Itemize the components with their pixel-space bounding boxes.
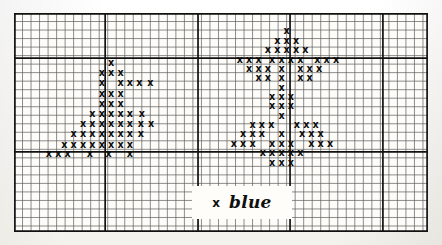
svg-text:x: x (299, 128, 306, 139)
svg-text:x: x (288, 54, 295, 65)
svg-text:x: x (327, 138, 334, 149)
svg-text:x: x (55, 148, 62, 159)
svg-text:x: x (269, 157, 276, 168)
svg-text:x: x (127, 77, 134, 88)
legend-box: x blue (192, 186, 292, 219)
svg-text:x: x (46, 148, 53, 159)
legend-symbol-x-icon: x (212, 197, 220, 209)
svg-text:x: x (71, 139, 78, 150)
svg-text:x: x (249, 138, 256, 149)
svg-text:x: x (65, 148, 72, 159)
svg-text:x: x (231, 138, 238, 149)
svg-text:x: x (127, 148, 134, 159)
svg-text:x: x (333, 54, 340, 65)
star-motif: xxxxxxxxxxxxxxxxxxxxxxxxxxxxxxxxxxxxxxxx… (231, 25, 340, 167)
svg-text:x: x (265, 72, 272, 83)
pattern-sheet: xxxxxxxxxxxxxxxxxxxxxxxxxxxxxxxxxxxxxxxx… (0, 0, 442, 245)
svg-text:x: x (108, 67, 115, 78)
svg-text:x: x (138, 128, 145, 139)
svg-text:x: x (316, 63, 323, 74)
svg-text:x: x (105, 148, 112, 159)
svg-text:x: x (147, 77, 154, 88)
svg-text:x: x (324, 54, 331, 65)
svg-text:x: x (117, 139, 124, 150)
svg-text:x: x (278, 157, 285, 168)
svg-text:x: x (240, 138, 247, 149)
svg-text:x: x (307, 72, 314, 83)
svg-text:x: x (259, 128, 266, 139)
svg-text:x: x (268, 119, 275, 130)
tree-motif: xxxxxxxxxxxxxxxxxxxxxxxxxxxxxxxxxxxxxxxx… (46, 57, 155, 159)
svg-text:x: x (269, 100, 276, 111)
svg-text:x: x (288, 100, 295, 111)
svg-text:x: x (87, 148, 94, 159)
svg-text:x: x (308, 138, 315, 149)
svg-text:x: x (136, 77, 143, 88)
svg-text:x: x (237, 54, 244, 65)
svg-text:x: x (278, 110, 285, 121)
svg-text:x: x (260, 147, 267, 158)
svg-text:x: x (297, 147, 304, 158)
legend-color-label: blue (229, 194, 272, 211)
svg-text:x: x (288, 157, 295, 168)
svg-text:x: x (318, 138, 325, 149)
svg-text:x: x (246, 63, 253, 74)
svg-text:x: x (297, 72, 304, 83)
svg-text:x: x (255, 72, 262, 83)
svg-text:x: x (148, 118, 155, 129)
